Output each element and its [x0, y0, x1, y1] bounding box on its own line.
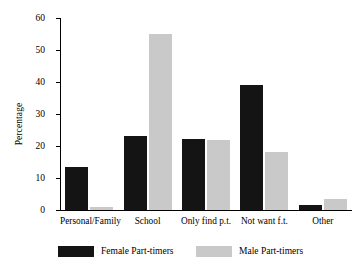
legend-swatch-male-icon: [196, 246, 232, 257]
bar-male: [90, 207, 113, 210]
y-tick-label: 20: [5, 142, 45, 151]
y-tick-label: 60: [5, 14, 45, 23]
y-tick-mark: [56, 50, 61, 51]
chart-legend: Female Part-timers Male Part-timers: [0, 244, 364, 264]
y-tick-mark: [56, 210, 61, 211]
y-tick-mark: [56, 146, 61, 147]
legend-swatch-female-icon: [58, 246, 94, 257]
y-tick-mark: [56, 178, 61, 179]
x-axis-label: Not want f.t.: [235, 216, 293, 227]
bar-female: [182, 139, 205, 210]
legend-label-male: Male Part-timers: [239, 246, 303, 257]
x-axis-label: Only find p.t.: [177, 216, 235, 227]
plot-area: 0102030405060 Personal/FamilySchoolOnly …: [60, 18, 352, 211]
x-axis-label: Personal/Family: [60, 216, 118, 227]
bar-male: [324, 199, 347, 210]
legend-entry-female-part-timers: Female Part-timers: [58, 244, 174, 258]
bar-male: [265, 152, 288, 210]
y-tick-label: 40: [5, 78, 45, 87]
x-axis-label: Other: [294, 216, 352, 227]
bar-female: [240, 85, 263, 210]
legend-entry-male-part-timers: Male Part-timers: [196, 244, 303, 258]
y-tick-mark: [56, 18, 61, 19]
y-axis-title: Percentage: [12, 74, 26, 174]
y-tick-label: 0: [5, 206, 45, 215]
bar-chart-figure: Percentage 0102030405060 Personal/Family…: [0, 0, 364, 271]
y-tick-label: 50: [5, 46, 45, 55]
y-tick-mark: [56, 82, 61, 83]
x-axis-line: [60, 210, 352, 211]
bar-female: [124, 136, 147, 210]
bar-female: [65, 167, 88, 210]
y-tick-label: 10: [5, 174, 45, 183]
x-axis-label: School: [118, 216, 176, 227]
y-tick-mark: [56, 114, 61, 115]
y-tick-label: 30: [5, 110, 45, 119]
legend-label-female: Female Part-timers: [101, 246, 174, 257]
bar-male: [207, 140, 230, 210]
bar-female: [299, 205, 322, 210]
bar-male: [149, 34, 172, 210]
